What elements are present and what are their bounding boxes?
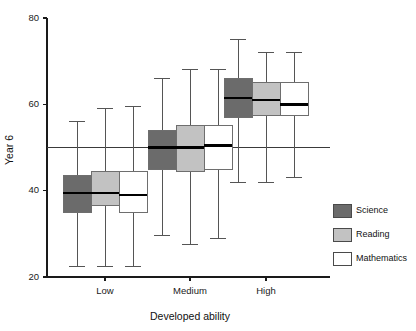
box-low-mathematics [119,106,147,266]
y-tick-label: 40 [28,184,39,195]
box-body [148,130,176,169]
x-tick-label-high: High [256,285,276,296]
x-tick-label-low: Low [96,285,114,296]
x-axis-title: Developed ability [150,310,231,322]
boxplot-canvas: 20406080 LowMediumHigh ScienceReadingMat… [0,0,416,331]
box-body [119,171,147,212]
x-tick-label-medium: Medium [173,285,207,296]
legend-swatch-reading [333,228,351,241]
x-axis: LowMediumHigh [47,277,330,296]
legend-label-science: Science [356,205,388,215]
box-medium-science [148,78,176,236]
box-medium-reading [176,70,204,245]
box-body [280,83,308,115]
boxplot-figure: 20406080 LowMediumHigh ScienceReadingMat… [0,0,416,331]
y-axis-title: Year 6 [3,135,15,165]
y-tick-label: 80 [28,12,39,23]
box-high-reading [252,53,280,183]
y-axis: 20406080 [28,12,47,282]
legend-label-reading: Reading [356,229,390,239]
y-tick-label: 20 [28,271,39,282]
box-low-science [63,122,91,267]
box-body [91,171,119,206]
y-tick-label: 60 [28,98,39,109]
box-body [204,126,232,169]
boxes-group [63,40,308,267]
legend-swatch-science [333,204,351,217]
box-low-reading [91,109,119,267]
legend: ScienceReadingMathematics [333,204,408,265]
box-high-mathematics [280,53,308,178]
legend-label-mathematics: Mathematics [356,253,408,263]
legend-swatch-mathematics [333,252,351,265]
